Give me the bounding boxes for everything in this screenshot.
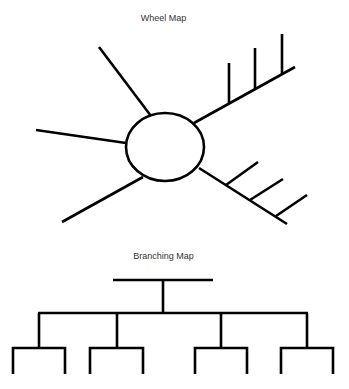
- spoke-upper-left: [99, 47, 151, 116]
- wheel-hub: [126, 113, 204, 181]
- spoke-lower-right: [199, 162, 307, 224]
- leaf-group-1: [13, 348, 65, 374]
- leaf-group-4: [281, 348, 333, 374]
- diagram-canvas: [0, 0, 349, 389]
- leaf-group-3: [195, 348, 247, 374]
- branching-map: [13, 280, 333, 374]
- spoke-upper-right: [194, 34, 295, 123]
- spoke-lower-left: [62, 177, 143, 222]
- leaf-group-2: [90, 348, 143, 374]
- wheel-map: [36, 34, 307, 224]
- spoke-left: [36, 130, 126, 143]
